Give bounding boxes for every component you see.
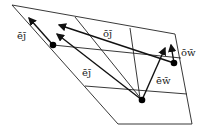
label-ow: ōw̄ xyxy=(181,47,196,58)
label-ej-left: ēj̄ xyxy=(17,30,26,41)
plane-outline xyxy=(12,5,192,124)
dot-bottom xyxy=(139,97,146,104)
dot-left xyxy=(50,42,57,49)
vector-plane-diagram: ēj̄ ōj̄ ōw̄ ēj̄ ēw̄ xyxy=(0,0,204,134)
dot-right xyxy=(171,60,178,67)
label-oj: ōj̄ xyxy=(103,28,112,39)
arrow-ej-left xyxy=(29,18,53,45)
label-ej-mid: ēj̄ xyxy=(82,67,91,78)
arrow-ej-mid xyxy=(57,34,142,100)
label-ew: ēw̄ xyxy=(156,75,171,86)
